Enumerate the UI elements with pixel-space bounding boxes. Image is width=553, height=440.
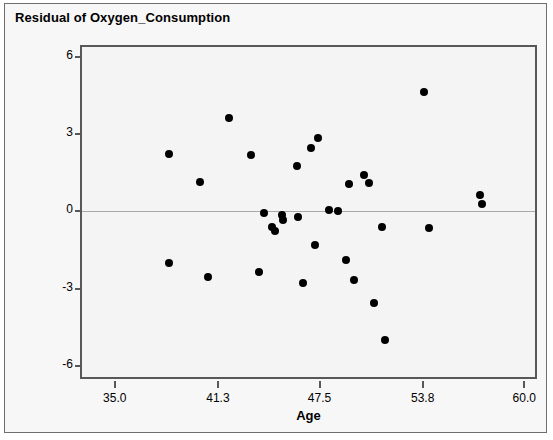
y-axis-tick-mark <box>75 288 82 290</box>
data-point <box>260 209 268 217</box>
data-point <box>293 162 301 170</box>
data-point <box>381 336 389 344</box>
data-point <box>294 213 302 221</box>
data-point <box>204 273 212 281</box>
data-point <box>165 259 173 267</box>
scatter-plot-area <box>82 47 535 377</box>
y-axis-tick-label: 6 <box>66 48 73 62</box>
x-axis-tick-mark <box>319 381 321 388</box>
data-point <box>299 279 307 287</box>
data-point <box>314 134 322 142</box>
data-point <box>247 151 255 159</box>
x-axis-tick-mark <box>422 381 424 388</box>
x-axis-tick-label: 41.3 <box>206 391 229 405</box>
data-point <box>307 144 315 152</box>
x-axis-title: Age <box>80 408 537 423</box>
data-point <box>365 179 373 187</box>
data-point <box>478 200 486 208</box>
y-axis-tick-labels: 630-3-6 <box>35 45 73 379</box>
data-point <box>425 224 433 232</box>
plot-frame: 35.041.347.553.860.0 <box>80 45 537 379</box>
data-point <box>196 178 204 186</box>
data-point <box>165 150 173 158</box>
data-point <box>350 276 358 284</box>
x-axis-tick-mark <box>217 381 219 388</box>
x-axis-tick-label: 60.0 <box>513 391 536 405</box>
zero-reference-line <box>82 211 535 212</box>
x-axis-tick-label: 35.0 <box>103 391 126 405</box>
data-point <box>342 256 350 264</box>
x-axis-tick-label: 47.5 <box>308 391 331 405</box>
data-point <box>360 171 368 179</box>
data-point <box>345 180 353 188</box>
x-axis-tick-label: 53.8 <box>411 391 434 405</box>
y-axis-tick-mark <box>75 133 82 135</box>
chart-title: Residual of Oxygen_Consumption <box>15 10 230 25</box>
data-point <box>476 191 484 199</box>
data-point <box>255 268 263 276</box>
x-axis-tick-mark <box>523 381 525 388</box>
y-axis-tick-label: 0 <box>66 202 73 216</box>
y-axis-tick-mark <box>75 56 82 58</box>
data-point <box>334 207 342 215</box>
data-point <box>378 223 386 231</box>
data-point <box>325 206 333 214</box>
chart-window: Residual of Oxygen_Consumption 630-3-6 3… <box>4 3 547 433</box>
data-point <box>420 88 428 96</box>
y-axis-tick-label: 3 <box>66 125 73 139</box>
y-axis-tick-mark <box>75 365 82 367</box>
y-axis-tick-mark <box>75 210 82 212</box>
x-axis-tick-mark <box>114 381 116 388</box>
y-axis-tick-label: -6 <box>62 357 73 371</box>
y-axis-tick-label: -3 <box>62 280 73 294</box>
data-point <box>311 241 319 249</box>
data-point <box>271 227 279 235</box>
data-point <box>279 216 287 224</box>
data-point <box>225 114 233 122</box>
data-point <box>370 299 378 307</box>
